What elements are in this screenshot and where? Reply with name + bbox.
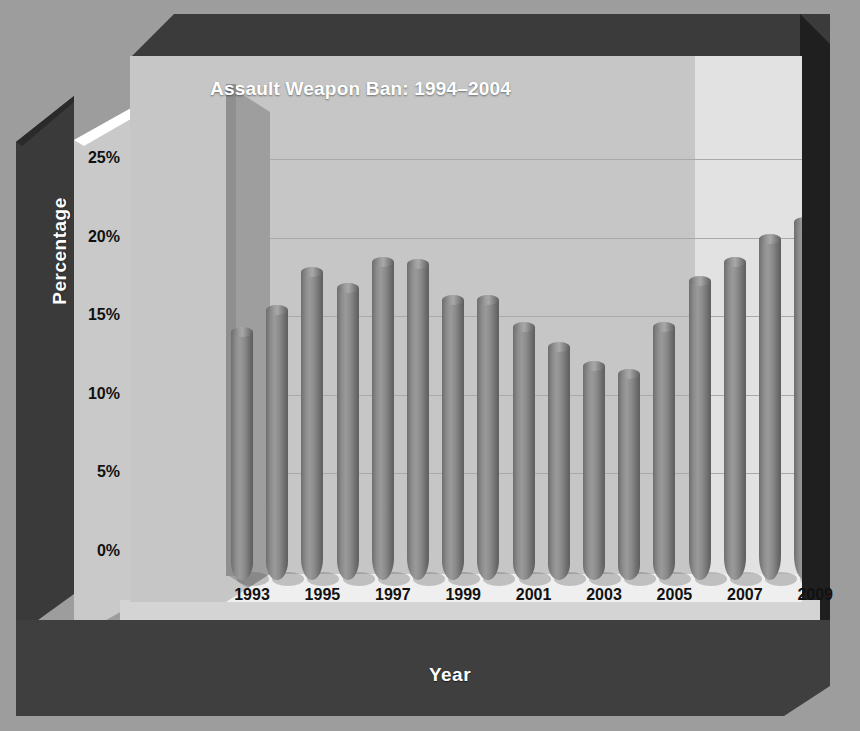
bar[interactable] [407, 264, 429, 580]
bar[interactable] [266, 310, 288, 580]
bar[interactable] [231, 332, 253, 580]
bar-top-cap [477, 295, 499, 305]
bar-top-cap [689, 276, 711, 286]
bar[interactable] [724, 262, 746, 580]
bar-top-cap [513, 322, 535, 332]
bar[interactable] [372, 262, 394, 580]
bar[interactable] [548, 347, 570, 580]
x-axis-title: Year [300, 660, 600, 690]
chart-frame: Percentage Year 0%5%10%15%20%25% 1993199… [0, 0, 860, 731]
x-axis-tick-label: 2009 [785, 586, 845, 604]
bar-top-cap [301, 267, 323, 277]
plot-area [130, 56, 802, 602]
chart-title: Assault Weapon Ban: 1994–2004 [210, 78, 511, 100]
bar[interactable] [477, 300, 499, 580]
bar-top-cap [231, 327, 253, 337]
x-axis-tick-label: 2001 [504, 586, 564, 604]
bar[interactable] [759, 239, 781, 580]
bar-top-cap [337, 283, 359, 293]
bar[interactable] [794, 222, 802, 580]
x-axis-tick-label: 1993 [222, 586, 282, 604]
bar-top-cap [548, 342, 570, 352]
x-axis-tick-label: 2007 [715, 586, 775, 604]
frame-top-bevel [130, 14, 830, 58]
bar[interactable] [618, 374, 640, 580]
bar-top-cap [407, 259, 429, 269]
x-axis-tick-label: 1997 [363, 586, 423, 604]
bar-top-cap [724, 257, 746, 267]
bar-top-cap [759, 234, 781, 244]
y-axis-tick-label: 10% [0, 385, 120, 403]
gridline [270, 159, 802, 160]
bar-top-cap [653, 322, 675, 332]
y-axis-tick-label: 25% [0, 149, 120, 167]
bar-top-cap [266, 305, 288, 315]
bar-top-cap [583, 361, 605, 371]
x-axis-tick-label: 1995 [292, 586, 352, 604]
x-axis-tick-label: 2005 [644, 586, 704, 604]
bar[interactable] [337, 288, 359, 580]
bar-top-cap [794, 217, 802, 227]
gridline [270, 238, 802, 239]
x-axis-ticks: 199319951997199920012003200520072009 [130, 578, 820, 618]
y-axis-tick-label: 20% [0, 228, 120, 246]
y-axis-title: Percentage [45, 131, 75, 371]
y-axis-tick-label: 15% [0, 306, 120, 324]
y-axis-tick-label: 5% [0, 463, 120, 481]
x-axis-tick-label: 2003 [574, 586, 634, 604]
frame-right-bevel [800, 14, 830, 634]
y-axis-tick-label: 0% [0, 542, 120, 560]
bar[interactable] [689, 281, 711, 580]
bar[interactable] [583, 366, 605, 580]
bar[interactable] [513, 327, 535, 580]
bar[interactable] [653, 327, 675, 580]
bar-top-cap [372, 257, 394, 267]
bar-top-cap [618, 369, 640, 379]
bar[interactable] [442, 300, 464, 580]
x-axis-tick-label: 1999 [433, 586, 493, 604]
bar[interactable] [301, 272, 323, 580]
bar-top-cap [442, 295, 464, 305]
